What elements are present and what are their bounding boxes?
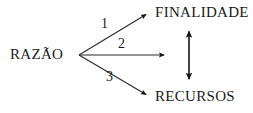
edge-label-one: 1: [101, 17, 108, 31]
edge-label-two: 2: [118, 37, 125, 51]
arrow-razao-to-finalidade: [79, 15, 146, 56]
diagram-canvas: RAZÃO FINALIDADE RECURSOS 1 2 3: [0, 0, 253, 113]
node-label-razao: RAZÃO: [10, 47, 63, 62]
edge-label-three: 3: [106, 70, 113, 84]
node-label-finalidade: FINALIDADE: [155, 5, 249, 20]
node-label-recursos: RECURSOS: [155, 89, 235, 104]
